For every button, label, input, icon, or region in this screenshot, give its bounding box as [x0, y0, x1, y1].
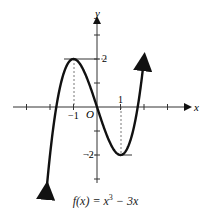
caption-prefix: f(x) = x [73, 194, 109, 208]
tick-label-x-1: 1 [118, 94, 123, 105]
y-axis-label: y [94, 7, 100, 19]
tick-label-x-neg1: −1 [68, 110, 79, 121]
tick-label-y-2: 2 [102, 53, 107, 64]
function-graph: x y O −1 1 2 −2 [0, 0, 211, 222]
x-axis-label: x [193, 101, 199, 113]
function-caption: f(x) = x3 − 3x [0, 193, 211, 209]
tick-label-y-neg2: −2 [83, 149, 94, 160]
caption-suffix: − 3x [113, 194, 138, 208]
origin-label: O [86, 108, 94, 120]
cubic-curve [47, 57, 144, 186]
